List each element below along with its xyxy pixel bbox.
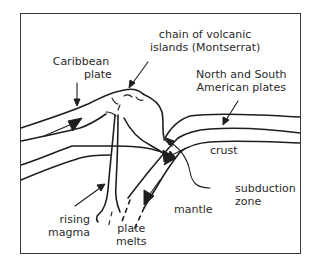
label-melts-line2: melts <box>116 235 147 248</box>
subduction-diagram: Caribbean plate chain of volcanic island… <box>0 0 320 268</box>
label-crust-text: crust <box>210 144 238 157</box>
label-american-plates: North and South American plates <box>196 68 286 94</box>
label-american-line2: American plates <box>196 81 286 94</box>
label-caribbean-line1: Caribbean <box>50 55 112 68</box>
label-american-line1: North and South <box>196 68 286 81</box>
label-melts-line1: plate <box>116 222 147 235</box>
label-crust: crust <box>210 144 238 157</box>
label-caribbean-plate: Caribbean plate <box>50 55 112 81</box>
label-volcanic-line1: chain of volcanic <box>150 28 260 41</box>
label-caribbean-line2: plate <box>50 68 112 81</box>
label-subduction-line2: zone <box>235 195 296 208</box>
label-volcanic-chain: chain of volcanic islands (Montserrat) <box>150 28 260 54</box>
label-magma-line2: magma <box>48 226 90 239</box>
label-subduction-zone: subduction zone <box>235 182 296 208</box>
label-mantle: mantle <box>174 203 213 216</box>
label-subduction-line1: subduction <box>235 182 296 195</box>
label-mantle-text: mantle <box>174 203 213 216</box>
label-volcanic-line2: islands (Montserrat) <box>150 41 260 54</box>
label-magma-line1: rising <box>48 213 90 226</box>
label-rising-magma: rising magma <box>48 213 90 239</box>
label-plate-melts: plate melts <box>116 222 147 248</box>
